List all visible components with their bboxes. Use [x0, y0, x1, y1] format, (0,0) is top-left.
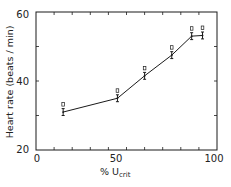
point-marker-glyph [62, 103, 65, 107]
point-marker-glyph [116, 89, 119, 93]
y-tick-60: 60 [16, 9, 29, 20]
data-series [62, 26, 204, 115]
point-marker-glyph [201, 26, 204, 30]
y-axis-label: Heart rate (beats / min) [4, 26, 15, 139]
x-axis-label-main: % U [100, 166, 119, 177]
x-tick-100: 100 [204, 153, 223, 164]
x-axis-ticks [54, 12, 199, 150]
x-axis-label: % Ucrit [100, 166, 131, 179]
data-point [117, 97, 119, 99]
x-axis-label-sub: crit [119, 171, 131, 179]
heart-rate-chart: 60 40 20 0 50 100 Heart rate (beats / mi… [0, 0, 231, 187]
point-marker-glyph [143, 66, 146, 70]
data-point [171, 54, 173, 56]
data-point [191, 35, 193, 37]
x-tick-0: 0 [34, 153, 40, 164]
data-point [202, 35, 204, 37]
y-tick-40: 40 [16, 76, 29, 87]
y-axis-ticks [36, 47, 217, 116]
data-point [144, 75, 146, 77]
data-point [62, 111, 64, 113]
x-tick-50: 50 [110, 153, 123, 164]
data-line [63, 35, 202, 112]
y-tick-20: 20 [16, 144, 29, 155]
plot-frame [36, 12, 217, 150]
point-marker-glyph [170, 46, 173, 50]
point-marker-glyph [190, 27, 193, 31]
